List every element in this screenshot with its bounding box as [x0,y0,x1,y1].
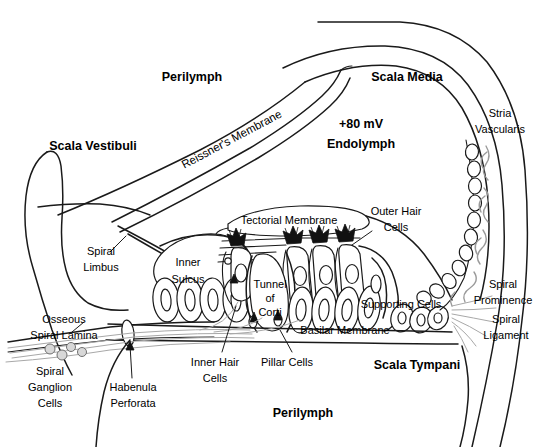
label-supporting-cells: Supporting Cells [361,298,442,310]
hensen-cell-nucleus [371,275,381,293]
scala-tympani-right-wall [460,346,468,447]
basilar-membrane-lower-line [106,340,458,344]
modiolar-hook-inner [47,151,128,310]
scala-tympani-left-wall [96,340,130,447]
stria-cell [468,212,481,228]
label-endolymph: Endolymph [327,137,395,151]
stria-vascularis-group [414,140,489,310]
ligament-fiber [452,318,486,336]
label-scala-vestibuli: Scala Vestibuli [49,139,137,153]
leader-pillar-cells [280,330,292,352]
inner-hair-cell-nucleus [235,264,247,282]
label-reissners-membrane: Reissner's Membrane [180,108,284,171]
label-inner-sulcus-line1: Inner [175,256,200,268]
label-spiral-ganglion-cells-line1: Spiral [36,365,64,377]
inner-pillar-vacuole [225,258,231,264]
label-stria-vascularis-line2: Vascularis [475,123,525,135]
label-osseous-spiral-lamina-line1: Osseous [42,313,86,325]
ligament-fiber [452,308,496,310]
label-tunnel-of-corti-line2: of [265,292,275,304]
label-tunnel-of-corti-line3: Corti [258,306,281,318]
label-outer-hair-cells-line2: Cells [384,221,409,233]
cochlea-cross-section-illustration: Perilymph Scala Vestibuli Scala Media +8… [0,0,540,447]
label-habenula-perforata-line2: Perforata [110,397,156,409]
label-inner-sulcus-line2: Sulcus [171,273,205,285]
vestibular-shelf [38,204,150,215]
label-outer-hair-cells-line1: Outer Hair [371,205,422,217]
ligament-fiber [454,326,468,352]
label-habenula-perforata-line1: Habenula [109,381,157,393]
label-spiral-prominence-line2: Prominence [474,294,533,306]
label-spiral-ganglion-cells-line3: Cells [38,397,63,409]
label-scala-tympani: Scala Tympani [374,358,461,372]
label-inner-hair-cells-line2: Cells [203,372,228,384]
label-spiral-limbus-line1: Spiral [87,245,115,257]
label-tunnel-of-corti-line1: Tunnel [253,278,286,290]
ganglion-cell [67,343,76,352]
label-spiral-limbus-line2: Limbus [83,261,119,273]
ganglion-cell [78,348,87,357]
ganglion-cell [45,344,55,354]
stria-cell [467,161,481,178]
label-inner-hair-cells-line1: Inner Hair [191,356,240,368]
ganglion-cell [57,350,67,360]
stria-cell [468,178,482,194]
label-perilymph-top: Perilymph [162,70,222,84]
cochlea-diagram: Perilymph Scala Vestibuli Scala Media +8… [0,0,540,447]
label-spiral-ligament-line2: Ligament [483,329,528,341]
label-osseous-spiral-lamina-line2: Spiral Lamina [30,329,98,341]
label-stria-vascularis-line1: Stria [489,107,513,119]
label-pillar-cells: Pillar Cells [261,356,313,368]
tectorial-membrane-tip [216,228,228,234]
label-endolymph-voltage: +80 mV [339,117,384,131]
stria-cell [458,244,475,263]
label-scala-media: Scala Media [371,70,444,84]
label-perilymph-bottom: Perilymph [273,406,333,420]
label-spiral-prominence-line1: Spiral [489,278,517,290]
label-tectorial-membrane: Tectorial Membrane [241,214,338,226]
label-basilar-membrane: Basilar Membrane [300,324,389,336]
label-spiral-ligament-line1: Spiral [492,313,520,325]
label-spiral-ganglion-cells-line2: Ganglion [28,381,72,393]
